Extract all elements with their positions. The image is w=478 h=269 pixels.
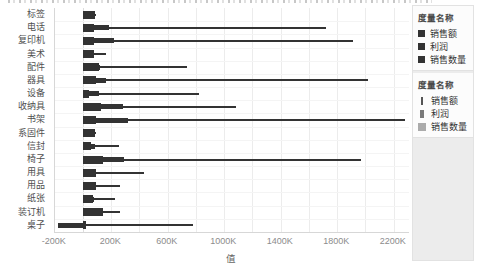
category-label-美术[interactable]: 美术: [0, 48, 50, 61]
size-medium-mark-icon: [418, 109, 426, 118]
bar-mark-销售额-用具[interactable]: [83, 172, 144, 174]
legend-item-label: 利润: [431, 107, 449, 120]
row-separator: [55, 179, 409, 180]
bar-mark-销售额-信封[interactable]: [83, 145, 119, 147]
row-separator: [55, 219, 409, 220]
x-tick-label: 200K: [100, 236, 121, 246]
row-separator: [55, 48, 409, 49]
row-separator: [55, 166, 409, 167]
bar-mark-销售额-电话[interactable]: [83, 27, 326, 29]
bar-mark-销售额-系固件[interactable]: [83, 132, 96, 134]
row-separator: [55, 34, 409, 35]
plot-area[interactable]: [54, 8, 409, 233]
bar-mark-销售额-桌子[interactable]: [83, 224, 193, 226]
row-separator: [55, 87, 409, 88]
x-tick-label: 2200K: [380, 236, 406, 246]
category-label-纸张[interactable]: 纸张: [0, 192, 50, 205]
bar-mark-销售额-设备[interactable]: [83, 93, 199, 95]
category-label-器具[interactable]: 器具: [0, 74, 50, 87]
row-separator: [55, 140, 409, 141]
bar-mark-销售额-美术[interactable]: [83, 53, 106, 55]
category-label-设备[interactable]: 设备: [0, 87, 50, 100]
color-swatch-icon: [418, 30, 425, 37]
clipped-text-strip: [8, 0, 432, 3]
bar-mark-销售额-装订机[interactable]: [83, 211, 120, 213]
row-separator: [55, 206, 409, 207]
category-label-系固件[interactable]: 系固件: [0, 127, 50, 140]
x-tick-label: 1400K: [267, 236, 293, 246]
x-tick-label: 600K: [156, 236, 177, 246]
color-swatch-icon: [418, 56, 425, 63]
bar-mark-利润-桌子[interactable]: [58, 223, 83, 228]
color-swatch-icon: [418, 43, 425, 50]
legend-panel-filler: [413, 138, 473, 260]
color-legend-item-quantity[interactable]: 销售数量: [418, 53, 471, 66]
row-separator: [55, 113, 409, 114]
category-label-信封[interactable]: 信封: [0, 140, 50, 153]
x-tick-label: 1000K: [210, 236, 236, 246]
category-label-书架[interactable]: 书架: [0, 113, 50, 126]
bar-mark-销售额-收纳具[interactable]: [83, 106, 236, 108]
color-legend-item-profit[interactable]: 利润: [418, 40, 471, 53]
bar-mark-销售额-标签[interactable]: [83, 14, 96, 16]
bar-mark-销售额-椅子[interactable]: [83, 159, 361, 161]
category-label-收纳具[interactable]: 收纳具: [0, 100, 50, 113]
category-label-桌子[interactable]: 桌子: [0, 219, 50, 232]
category-label-电话[interactable]: 电话: [0, 21, 50, 34]
legend-item-label: 利润: [430, 40, 448, 53]
x-axis-title: 值: [54, 251, 408, 265]
legend-item-label: 销售数量: [431, 120, 467, 133]
category-label-装订机[interactable]: 装订机: [0, 206, 50, 219]
size-legend-item-sales[interactable]: 销售额: [418, 94, 471, 107]
category-label-用品[interactable]: 用品: [0, 179, 50, 192]
x-tick-label: 1800K: [323, 236, 349, 246]
bar-mark-销售额-复印机[interactable]: [83, 40, 353, 42]
size-legend-item-quantity[interactable]: 销售数量: [418, 120, 471, 133]
bar-mark-销售额-用品[interactable]: [83, 185, 120, 187]
size-legend-item-profit[interactable]: 利润: [418, 107, 471, 120]
bar-mark-销售额-器具[interactable]: [83, 79, 368, 81]
chart-window: 标签电话复印机美术配件器具设备收纳具书架系固件信封椅子用具用品纸张装订机桌子 -…: [0, 0, 478, 269]
row-separator: [55, 100, 409, 101]
category-label-用具[interactable]: 用具: [0, 166, 50, 179]
legend-item-label: 销售额: [431, 94, 458, 107]
category-label-椅子[interactable]: 椅子: [0, 153, 50, 166]
legend-item-label: 销售额: [430, 27, 457, 40]
category-label-复印机[interactable]: 复印机: [0, 34, 50, 47]
row-separator: [55, 74, 409, 75]
bar-mark-销售额-配件[interactable]: [83, 66, 188, 68]
bar-mark-销售额-纸张[interactable]: [83, 198, 115, 200]
size-legend-title: 度量名称: [418, 78, 471, 90]
category-label-配件[interactable]: 配件: [0, 61, 50, 74]
legend-panel: 度量名称 销售额 利润 销售数量 度量名称 销售额 利润: [412, 5, 474, 261]
row-separator: [55, 61, 409, 62]
x-tick-label: -200K: [42, 236, 66, 246]
color-legend-item-sales[interactable]: 销售额: [418, 27, 471, 40]
size-small-mark-icon: [418, 96, 426, 105]
size-large-mark-icon: [418, 122, 426, 131]
legend-item-label: 销售数量: [430, 53, 466, 66]
x-axis-ticks: -200K200K600K1000K1400K1800K2200K: [0, 236, 478, 248]
row-separator: [55, 153, 409, 154]
category-label-标签[interactable]: 标签: [0, 8, 50, 21]
size-legend-card: 度量名称 销售额 利润 销售数量: [413, 73, 473, 138]
row-separator: [55, 127, 409, 128]
y-axis-labels: 标签电话复印机美术配件器具设备收纳具书架系固件信封椅子用具用品纸张装订机桌子: [0, 8, 50, 232]
row-separator: [55, 21, 409, 22]
color-legend-title: 度量名称: [418, 11, 471, 23]
color-legend-card: 度量名称 销售额 利润 销售数量: [413, 6, 473, 71]
row-separator: [55, 192, 409, 193]
bar-mark-销售额-书架[interactable]: [83, 119, 405, 121]
